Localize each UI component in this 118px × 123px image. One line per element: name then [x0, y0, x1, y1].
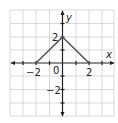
x-axis-left-arrow-icon: [10, 61, 15, 65]
y-tick-label-2: 2: [52, 32, 58, 43]
y-axis-label: y: [65, 12, 73, 23]
y-axis-up-arrow-icon: [61, 10, 65, 15]
x-tick-label-2: 2: [86, 67, 92, 78]
origin-label: 0: [53, 65, 59, 76]
x-axis-label: x: [105, 49, 112, 60]
y-tick-label-neg2: −2: [46, 85, 61, 96]
x-tick-label-neg2: −2: [26, 67, 41, 78]
coordinate-graph: y x 2 −2 −2 0 2: [0, 0, 118, 123]
